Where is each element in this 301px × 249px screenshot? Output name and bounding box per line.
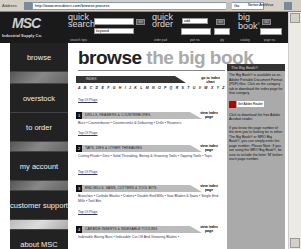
quick-order-go-button[interactable]: GO: [216, 19, 225, 25]
section-number: 3: [76, 185, 82, 192]
quick-order-label: quick order: [152, 14, 173, 28]
order-action-select[interactable]: add: [182, 18, 208, 24]
top-of-page-link[interactable]: Top Of Page: [78, 170, 97, 174]
view-index-page-link[interactable]: view index page: [198, 144, 220, 152]
search-type-select[interactable]: keyword: [94, 28, 134, 34]
nav-about-msc[interactable]: about MSC: [10, 230, 68, 249]
quick-search-input[interactable]: [94, 18, 134, 25]
url-dropdown-icon[interactable]: [226, 2, 232, 10]
quick-search-label: quick search: [68, 14, 95, 28]
section-number: 4: [76, 226, 82, 233]
vertical-scrollbar[interactable]: [288, 12, 301, 249]
order-pad-link[interactable]: order pad: [154, 38, 167, 42]
nav-browse[interactable]: browse: [10, 43, 68, 72]
sidebar-page-note: If you know the page number of the item …: [227, 124, 285, 164]
section-title[interactable]: TAPS, DIES & OTHER THREADING: [82, 145, 202, 152]
alphabet-index[interactable]: A B C D E F G H I J K L M N O P Q R S T …: [78, 86, 226, 90]
address-bar: Address http://www.mscdirect.com/browse.…: [0, 0, 301, 12]
nav-my-account[interactable]: my account: [10, 152, 68, 181]
index-bar: INDEX: [76, 76, 186, 83]
search-tips-link[interactable]: search tips: [70, 38, 87, 42]
section-links[interactable]: Burs • Counterbores • Countersinks & Deb…: [78, 121, 223, 126]
nav-image: [10, 72, 68, 84]
address-label: Address: [2, 3, 17, 8]
toolbar-icon[interactable]: [284, 2, 292, 10]
nav-image: [10, 142, 68, 152]
logo-subtitle: Industrial Supply Co.: [2, 33, 42, 38]
go-button[interactable]: Go: [234, 3, 239, 8]
nav-to-order[interactable]: to order: [10, 113, 68, 142]
nav-overstock[interactable]: overstock: [10, 84, 68, 113]
view-index-page-link[interactable]: view index page: [198, 184, 220, 192]
view-index-page-link[interactable]: view index page: [198, 111, 220, 119]
sidebar-intro: The Big Book® is available as an Adobe P…: [227, 71, 285, 98]
quick-search-go-button[interactable]: GO: [136, 19, 145, 25]
section-number: 2: [76, 145, 82, 152]
links-button[interactable]: Norton AntiVirus: [248, 3, 301, 8]
go-to-index-chart-link[interactable]: go to index chart: [198, 76, 223, 84]
page-number-input[interactable]: [260, 28, 282, 35]
main-nav: browse overstock to order my account cus…: [10, 43, 68, 249]
top-of-page-link[interactable]: Top Of Page: [78, 210, 97, 214]
big-book-sidebar: The Big Book® The Big Book® is available…: [227, 64, 285, 249]
top-of-page-link[interactable]: Top Of Page: [78, 131, 97, 135]
section-links[interactable]: Broaches • Carbide Blanks • Cutters • Do…: [78, 194, 223, 204]
page-number-label: page no.: [264, 38, 276, 42]
section-links[interactable]: Indexable Boring Bars • Indexable Cut-Of…: [78, 235, 223, 240]
nav-image: [10, 181, 68, 191]
section-links[interactable]: Cutting Fluids • Dies • Solid Threading,…: [78, 154, 223, 159]
qty-label: qty: [220, 38, 224, 42]
nav-image: [10, 220, 68, 230]
adobe-icon: [229, 101, 236, 108]
section-number: 1: [76, 112, 82, 119]
catalog-link[interactable]: catalog: [240, 38, 250, 42]
scroll-down-button[interactable]: [290, 238, 300, 248]
part-number-input[interactable]: [181, 28, 211, 35]
sidebar-download-text: Click to download the free Adobe Acrobat…: [227, 111, 285, 124]
part-number-label: part no.: [190, 38, 200, 42]
page-icon: [24, 2, 32, 10]
quantity-input[interactable]: [214, 28, 230, 35]
big-book-label: big book®: [238, 14, 260, 30]
section-title[interactable]: END MILLS, SAWS, CUTTERS & TOOL BITS: [82, 185, 202, 192]
big-book-go-button[interactable]: GO: [262, 19, 271, 25]
section-title[interactable]: CARBIDE INSERTS & INDEXABLE TOOLING: [82, 226, 202, 233]
adobe-reader-badge[interactable]: Get Adobe Reader: [229, 101, 283, 108]
msc-logo[interactable]: MSC: [12, 15, 40, 31]
section-title[interactable]: DRILLS, REAMERS & COUNTERBORES: [82, 112, 202, 119]
sidebar-header: The Big Book®: [227, 64, 285, 71]
view-index-page-link[interactable]: view index page: [198, 225, 220, 233]
scroll-up-button[interactable]: [290, 13, 300, 23]
nav-customer-support[interactable]: customer support: [10, 191, 68, 220]
site-header: MSC Industrial Supply Co. quick search s…: [0, 12, 288, 43]
title-underline: [78, 70, 225, 71]
top-of-page-link[interactable]: Top Of Page: [78, 98, 97, 102]
